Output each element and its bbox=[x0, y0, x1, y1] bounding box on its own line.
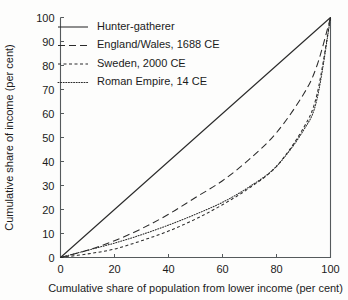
legend-label-1: England/Wales, 1688 CE bbox=[97, 38, 220, 50]
x-tick-label: 60 bbox=[216, 263, 228, 275]
legend-group: Hunter-gathererEngland/Wales, 1688 CESwe… bbox=[58, 20, 220, 88]
y-tick-label: 40 bbox=[42, 156, 54, 168]
x-tick-label: 80 bbox=[270, 263, 282, 275]
y-tick-label: 60 bbox=[42, 108, 54, 120]
x-tick-label: 100 bbox=[321, 263, 339, 275]
y-tick-label: 30 bbox=[42, 180, 54, 192]
legend-label-3: Roman Empire, 14 CE bbox=[97, 75, 207, 87]
x-axis-title: Cumulative share of population from lowe… bbox=[48, 282, 343, 294]
x-tick-label: 20 bbox=[108, 263, 120, 275]
lorenz-curve-chart: 0102030405060708090100020406080100 Hunte… bbox=[0, 0, 348, 300]
y-tick-label: 50 bbox=[42, 132, 54, 144]
chart-canvas: 0102030405060708090100020406080100 Hunte… bbox=[0, 0, 348, 300]
axes-group: 0102030405060708090100020406080100 bbox=[36, 12, 340, 275]
y-axis-title: Cumulative share of income (per cent) bbox=[3, 44, 15, 230]
y-tick-label: 70 bbox=[42, 84, 54, 96]
series-line-0 bbox=[61, 18, 331, 258]
y-tick-label: 10 bbox=[42, 228, 54, 240]
legend-label-0: Hunter-gatherer bbox=[97, 20, 175, 32]
y-tick-label: 20 bbox=[42, 204, 54, 216]
legend-label-2: Sweden, 2000 CE bbox=[97, 57, 186, 69]
y-tick-label: 100 bbox=[36, 12, 54, 24]
series-group bbox=[61, 18, 331, 258]
y-tick-label: 90 bbox=[42, 36, 54, 48]
y-tick-label: 0 bbox=[48, 252, 54, 264]
x-tick-label: 40 bbox=[162, 263, 174, 275]
x-tick-label: 0 bbox=[57, 263, 63, 275]
y-tick-label: 80 bbox=[42, 60, 54, 72]
